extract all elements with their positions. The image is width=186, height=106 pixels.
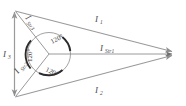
label-i1-subscript: 1 — [100, 19, 103, 25]
phasor-line-i1 — [15, 11, 172, 52]
angle-label-lower: 120° — [44, 66, 60, 79]
label-i2-symbol: I — [94, 85, 99, 95]
angle-labels-group: 120° 120° 120° — [26, 33, 65, 79]
diagram-canvas: 120° 120° 120° I 1 I 2 I 3 I — [0, 0, 186, 106]
phasor-line-i2 — [15, 56, 172, 98]
label-i2: I 2 — [94, 85, 103, 96]
label-i1-symbol: I — [94, 14, 99, 24]
label-i1: I 1 — [94, 14, 103, 25]
angle-label-left: 120° — [26, 49, 34, 63]
phasor-diagram-figure: 120° 120° 120° I 1 I 2 I 3 I — [0, 0, 186, 106]
label-istr1-subscript: Str1 — [105, 48, 114, 54]
angle-label-upper: 120° — [49, 33, 65, 46]
label-istr3-subscript: Str3 — [25, 20, 36, 31]
label-i3: I 3 — [2, 49, 11, 60]
label-istr1-symbol: I — [99, 43, 104, 53]
label-i2-subscript: 2 — [100, 90, 103, 96]
label-istr3: I Str3 — [22, 12, 40, 31]
label-istr1: I Str1 — [99, 43, 114, 54]
label-i3-symbol: I — [2, 49, 7, 59]
strand-current-group — [16, 12, 172, 96]
label-i3-subscript: 3 — [7, 54, 11, 60]
